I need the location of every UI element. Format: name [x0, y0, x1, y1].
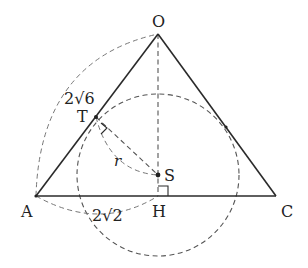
- point-T: [94, 115, 98, 119]
- label-A: A: [20, 202, 33, 221]
- point-A: [34, 194, 37, 197]
- tangent-point-right: [224, 125, 227, 128]
- label-H: H: [152, 202, 166, 221]
- geometry-diagram: O A C H S T r 2√6 2√2: [0, 0, 308, 268]
- side-OC: [158, 34, 276, 196]
- label-O: O: [152, 12, 165, 31]
- point-S: [156, 173, 161, 178]
- right-angle-mark-H: [158, 186, 168, 196]
- label-T: T: [77, 107, 88, 126]
- label-S: S: [164, 166, 175, 185]
- label-length-AH: 2√2: [92, 206, 123, 225]
- label-C: C: [281, 202, 293, 221]
- segment-TS: [96, 117, 158, 175]
- label-r: r: [114, 152, 122, 170]
- side-OA: [36, 34, 158, 196]
- label-length-OT: 2√6: [64, 89, 95, 108]
